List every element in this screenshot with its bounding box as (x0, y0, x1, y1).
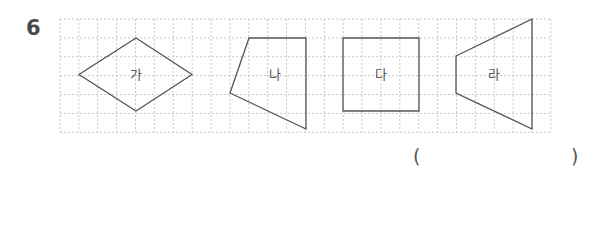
shape-label-ga: 가 (130, 67, 142, 82)
shape-label-da: 다 (375, 67, 387, 82)
answer-blank[interactable] (428, 148, 568, 168)
answer-close-paren: ) (571, 147, 578, 166)
answer-open-paren: ( (413, 147, 420, 166)
shape-label-na: 나 (269, 67, 281, 82)
shape-label-ra: 라 (488, 67, 500, 82)
